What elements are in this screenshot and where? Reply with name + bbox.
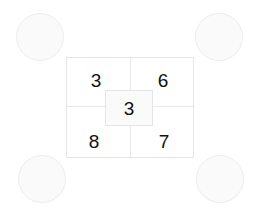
corner-circle-bottom-right (196, 155, 244, 203)
quadrant-value-bottom-right: 7 (154, 132, 174, 151)
quadrant-value-bottom-left: 8 (84, 132, 104, 151)
corner-circle-top-left (16, 13, 64, 61)
quadrant-value-top-left: 3 (86, 71, 106, 90)
corner-circle-top-right (195, 13, 243, 61)
center-square-value: 3 (124, 99, 135, 118)
quadrant-value-top-right: 6 (153, 71, 173, 90)
corner-circle-bottom-left (18, 155, 66, 203)
center-square: 3 (105, 90, 153, 126)
diagram-canvas: 3 6 8 7 3 (0, 0, 259, 215)
